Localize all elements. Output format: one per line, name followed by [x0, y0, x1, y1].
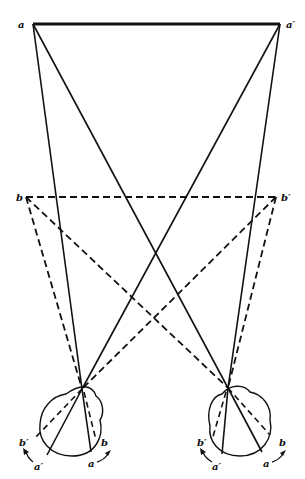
binocular-diagram: a a′ b b′ b′ a′ a b b′ a′ a b	[0, 0, 305, 479]
diagram-canvas: a a′ b b′ b′ a′ a b b′ a′ a b	[0, 0, 305, 479]
ray-b-prime-left-eye	[82, 197, 276, 389]
left-eye-ray-a	[82, 389, 91, 452]
label-a: a	[18, 19, 24, 30]
left-eye-arrow-right	[97, 454, 108, 462]
right-eye-label-b-prime: b′	[197, 437, 207, 448]
right-eye-label-b: b	[279, 437, 286, 448]
ray-b-right-eye	[26, 197, 228, 388]
label-a-prime: a′	[286, 19, 295, 30]
arrowhead-icon	[200, 448, 206, 455]
left-eye-label-b-prime: b′	[19, 437, 29, 448]
label-b-prime: b′	[281, 192, 291, 203]
left-eye-arrow-left	[26, 452, 33, 462]
left-eye-label-b: b	[101, 437, 108, 448]
right-eye-label-a: a	[263, 458, 269, 469]
right-eye-arrow-left	[203, 452, 212, 462]
arrowhead-icon	[105, 450, 111, 456]
left-eye-ray-a-prime	[47, 389, 82, 455]
left-eye-label-a-prime: a′	[34, 461, 43, 472]
ray-a-left-eye	[33, 24, 82, 389]
left-eye-outline	[40, 387, 103, 456]
left-eye-label-a: a	[88, 458, 94, 469]
label-b: b	[16, 192, 23, 203]
ray-a-prime-left-eye	[82, 24, 280, 389]
right-eye-arrow-right	[272, 454, 283, 462]
arrowhead-icon	[280, 450, 286, 456]
ray-a-right-eye	[33, 24, 228, 388]
arrowhead-icon	[23, 448, 29, 455]
ray-a-prime-right-eye	[228, 24, 280, 388]
right-eye-label-a-prime: a′	[212, 461, 221, 472]
ray-b-left-eye	[26, 197, 82, 389]
